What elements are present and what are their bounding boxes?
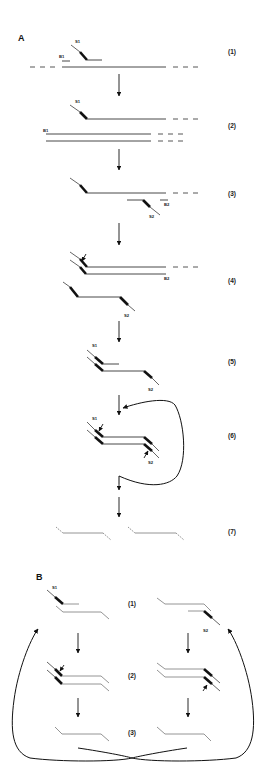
step-label-a6: (6)	[228, 432, 236, 440]
cross-loop-right-arrow-icon	[78, 629, 254, 761]
tag-s2: S2	[203, 628, 209, 633]
tag-s1: S1	[92, 416, 98, 421]
panel-b-step-2-right	[157, 663, 220, 691]
step-label-a7: (7)	[228, 528, 236, 536]
panel-label-a: A	[18, 33, 25, 43]
step-label-a1: (1)	[228, 48, 236, 56]
tag-s2: S2	[124, 313, 130, 318]
panel-b-step-3-right	[157, 727, 211, 741]
cross-loop-left-arrow-icon	[12, 629, 187, 761]
panel-b-step-2-left	[47, 662, 109, 691]
step-label-a5: (5)	[228, 358, 236, 366]
step-label-a2: (2)	[228, 122, 236, 130]
panel-b-step-3-left	[55, 727, 109, 741]
step-label-b1: (1)	[128, 600, 136, 608]
panel-a-step-1: S1 B1 (1)	[30, 39, 236, 67]
panel-a-step-6: S1 S2 (6)	[87, 416, 236, 465]
tag-s1: S1	[75, 39, 81, 44]
tag-b1: B1	[43, 128, 49, 133]
arrow-icon	[60, 665, 64, 671]
tag-s2: S2	[149, 214, 155, 219]
tag-s2: S2	[148, 460, 154, 465]
tag-s1: S1	[75, 99, 81, 104]
step-label-a3: (3)	[228, 190, 236, 198]
tag-b1: B1	[59, 54, 65, 59]
arrow-icon	[144, 451, 148, 458]
tag-s1: S1	[92, 343, 98, 348]
tag-b2: B2	[164, 202, 170, 207]
panel-a-step-5: S1 S2 (5)	[87, 343, 236, 392]
tag-s2: S2	[148, 387, 154, 392]
tag-b2: B2	[164, 276, 170, 281]
panel-b-step-1-left: S1	[47, 585, 109, 619]
step-label-a4: (4)	[228, 277, 236, 285]
lamp-amplification-diagram: A S1 B1 (1) S1 B1 (2) B2	[0, 0, 266, 780]
step-label-b2: (2)	[128, 672, 136, 680]
panel-a-step-7: (7)	[56, 527, 236, 540]
step-label-b3: (3)	[128, 729, 136, 737]
arrow-icon	[99, 424, 103, 431]
panel-label-b: B	[36, 572, 43, 582]
panel-a-step-3: B2 S2 (3)	[70, 178, 236, 219]
arrow-icon	[82, 254, 86, 261]
arrow-icon	[203, 685, 207, 691]
panel-b-step-1-right: S2	[157, 598, 220, 633]
panel-a-step-4: B2 S2 (4)	[63, 252, 236, 318]
panel-a-step-2: S1 B1 (2)	[43, 99, 236, 141]
tag-s1: S1	[52, 585, 58, 590]
